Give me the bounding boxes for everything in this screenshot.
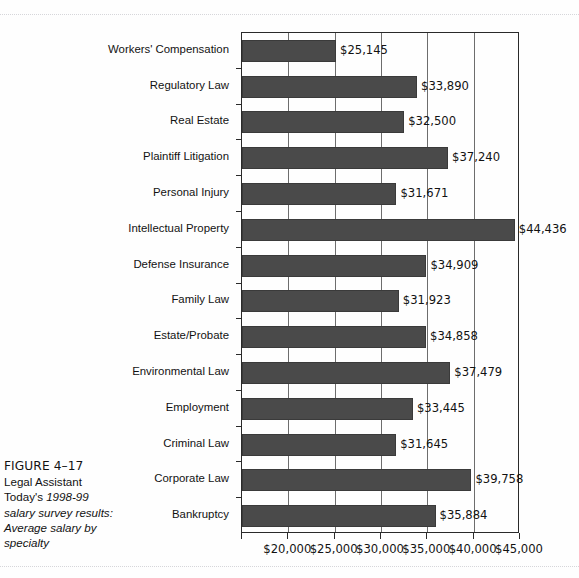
value-label: $37,479 xyxy=(454,365,502,379)
category-label: Workers' Compensation xyxy=(0,43,229,55)
value-label: $37,240 xyxy=(452,150,500,164)
category-label: Personal Injury xyxy=(0,186,229,198)
category-tick xyxy=(236,426,241,427)
category-tick xyxy=(236,390,241,391)
category-tick xyxy=(236,461,241,462)
category-label: Intellectual Property xyxy=(0,222,229,234)
value-label: $44,436 xyxy=(519,222,567,236)
x-tick xyxy=(426,533,427,539)
x-tick xyxy=(287,533,288,539)
category-label: Criminal Law xyxy=(0,437,229,449)
x-tick xyxy=(334,533,335,539)
x-tick xyxy=(380,533,381,539)
category-tick xyxy=(236,497,241,498)
category-label: Family Law xyxy=(0,293,229,305)
bar xyxy=(242,505,436,527)
x-axis-origin-tick xyxy=(241,533,242,539)
category-label: Regulatory Law xyxy=(0,79,229,91)
category-label: Estate/Probate xyxy=(0,329,229,341)
category-tick xyxy=(236,354,241,355)
bar xyxy=(242,434,396,456)
category-label: Plaintiff Litigation xyxy=(0,150,229,162)
bar xyxy=(242,219,515,241)
category-label: Bankruptcy xyxy=(0,508,229,520)
bar xyxy=(242,398,413,420)
category-tick xyxy=(236,139,241,140)
category-tick xyxy=(236,283,241,284)
bar xyxy=(242,469,471,491)
bar xyxy=(242,111,404,133)
value-label: $25,145 xyxy=(340,43,388,57)
category-tick xyxy=(236,211,241,212)
value-label: $35,884 xyxy=(440,508,488,522)
bar xyxy=(242,290,399,312)
bar xyxy=(242,326,426,348)
value-label: $31,645 xyxy=(400,437,448,451)
bar xyxy=(242,40,336,62)
value-label: $32,500 xyxy=(408,114,456,128)
gridline-40000 xyxy=(474,33,475,532)
scanned-page: FIGURE 4–17 Legal Assistant Today's 1998… xyxy=(0,0,579,578)
value-label: $31,671 xyxy=(400,186,448,200)
category-label: Corporate Law xyxy=(0,472,229,484)
x-tick xyxy=(519,533,520,539)
gridline-20000 xyxy=(288,33,289,532)
bar xyxy=(242,362,450,384)
bar xyxy=(242,147,448,169)
value-label: $31,923 xyxy=(403,293,451,307)
category-tick xyxy=(236,247,241,248)
x-tick xyxy=(473,533,474,539)
category-tick xyxy=(236,68,241,69)
value-label: $39,758 xyxy=(475,472,523,486)
bar xyxy=(242,255,426,277)
x-tick-label: $45,000 xyxy=(479,542,559,556)
gridline-35000 xyxy=(427,33,428,532)
category-label: Real Estate xyxy=(0,114,229,126)
value-label: $33,890 xyxy=(421,79,469,93)
category-label: Defense Insurance xyxy=(0,258,229,270)
value-label: $34,909 xyxy=(430,258,478,272)
gridline-25000 xyxy=(335,33,336,532)
category-label: Environmental Law xyxy=(0,365,229,377)
value-label: $33,445 xyxy=(417,401,465,415)
category-tick xyxy=(236,175,241,176)
category-label: Employment xyxy=(0,401,229,413)
salary-bar-chart: Workers' CompensationRegulatory LawReal … xyxy=(0,0,579,578)
bar xyxy=(242,76,417,98)
category-tick xyxy=(236,318,241,319)
value-label: $34,858 xyxy=(430,329,478,343)
category-tick xyxy=(236,104,241,105)
bar xyxy=(242,183,396,205)
gridline-30000 xyxy=(381,33,382,532)
plot-area xyxy=(241,32,519,533)
